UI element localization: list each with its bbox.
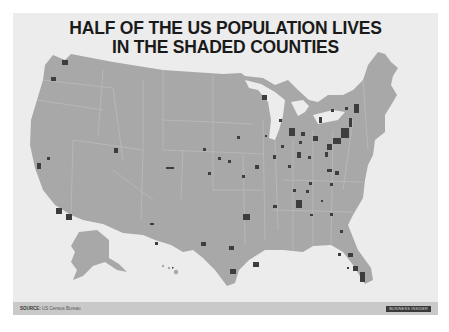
brand-logo: BUSINESS INSIDER: [386, 306, 431, 312]
source-label: SOURCE:: [20, 306, 41, 311]
alaska-land: [71, 230, 127, 280]
title-line-1: HALF OF THE US POPULATION LIVES: [13, 19, 438, 38]
source-value: US Census Bureau: [42, 306, 81, 311]
source-credit: SOURCE: US Census Bureau: [20, 306, 81, 311]
us-county-map: [13, 40, 438, 300]
footer-bar: SOURCE: US Census Bureau BUSINESS INSIDE…: [13, 302, 438, 315]
hawaii-land: [162, 265, 178, 274]
